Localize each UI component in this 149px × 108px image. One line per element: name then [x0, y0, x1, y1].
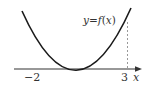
curve-label-eq: = [89, 14, 98, 26]
curve-label-close: ) [112, 14, 116, 26]
x-value-label: 3 [121, 71, 128, 84]
x-axis-label: x [133, 71, 140, 84]
graph-canvas: −2 3 x y=f(x) [0, 0, 149, 108]
curve-label: y=f(x) [82, 14, 116, 26]
root-left-label: −2 [24, 71, 40, 84]
